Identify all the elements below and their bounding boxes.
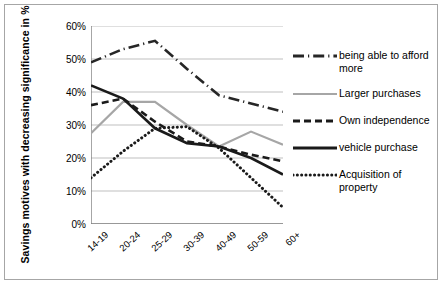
series-line-2: [91, 99, 283, 162]
legend-item[interactable]: vehicle purchase: [293, 141, 439, 155]
y-axis-tick-label: 0%: [72, 219, 86, 230]
legend-key-icon: [293, 168, 337, 182]
x-axis-tick-label-20-24: 20-24: [117, 229, 142, 253]
series-layer: [91, 41, 283, 208]
x-axis-ticks: 14-1920-2425-2930-3940-4950-5960+: [91, 229, 283, 279]
plot-area: 0%10%20%30%40%50%60%: [91, 26, 283, 224]
y-axis-tick-label: 20%: [66, 153, 86, 164]
legend-label: being able to afford more: [339, 49, 439, 74]
legend-item[interactable]: Own independence: [293, 114, 439, 128]
y-axis-title: Savings motives with decreasing signific…: [11, 19, 39, 249]
x-axis-tick-label-25-29: 25-29: [149, 229, 174, 253]
chart-frame: Savings motives with decreasing signific…: [4, 4, 438, 280]
y-axis-tick-label: 10%: [66, 186, 86, 197]
legend-key-icon: [293, 87, 337, 101]
y-axis-title-text: Savings motives with decreasing signific…: [19, 5, 32, 263]
x-axis-tick-label-40-49: 40-49: [213, 229, 238, 253]
x-axis-tick-label-14-19: 14-19: [85, 229, 110, 253]
legend-label: Acquisition of property: [339, 168, 439, 193]
y-axis-tick-label: 30%: [66, 120, 86, 131]
y-axis-tick-label: 60%: [66, 21, 86, 32]
legend-label: Larger purchases: [339, 87, 421, 100]
legend-item[interactable]: Larger purchases: [293, 87, 439, 101]
series-line-0: [91, 41, 283, 112]
series-line-1: [91, 102, 283, 147]
legend-item[interactable]: Acquisition of property: [293, 168, 439, 193]
legend-key-icon: [293, 141, 337, 155]
series-line-4: [91, 127, 283, 208]
series-line-3: [91, 85, 283, 174]
chart-legend: being able to afford moreLarger purchase…: [293, 49, 439, 206]
legend-label: Own independence: [339, 114, 430, 127]
y-axis-tick-label: 50%: [66, 54, 86, 65]
legend-key-icon: [293, 49, 337, 63]
legend-label: vehicle purchase: [339, 141, 418, 154]
legend-key-icon: [293, 114, 337, 128]
legend-item[interactable]: being able to afford more: [293, 49, 439, 74]
x-axis-tick-label-30-39: 30-39: [181, 229, 206, 253]
x-axis-tick-label-50-59: 50-59: [245, 229, 270, 253]
chart-svg: [91, 26, 283, 224]
x-axis-tick-label-60+: 60+: [283, 229, 302, 248]
y-axis-tick-label: 40%: [66, 87, 86, 98]
